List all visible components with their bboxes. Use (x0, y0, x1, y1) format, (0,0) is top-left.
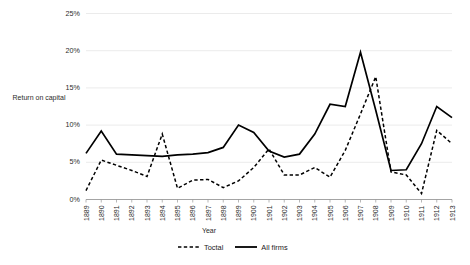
series-line-all-firms (86, 52, 452, 170)
legend-label: All firms (261, 243, 287, 252)
chart-container: Return on capital Year 0%5%10%15%20%25% … (0, 0, 470, 265)
plot-area (0, 0, 470, 265)
series-line-toctal (86, 77, 452, 194)
legend-item-toctal[interactable]: Toctal (178, 243, 223, 252)
chart-legend: ToctalAll firms (178, 240, 288, 254)
series-lines (86, 52, 452, 193)
gridlines (86, 14, 452, 200)
legend-item-all-firms[interactable]: All firms (235, 243, 287, 252)
legend-label: Toctal (204, 243, 223, 252)
legend-swatch-dashed-icon (178, 244, 200, 250)
legend-swatch-solid-icon (235, 244, 257, 250)
